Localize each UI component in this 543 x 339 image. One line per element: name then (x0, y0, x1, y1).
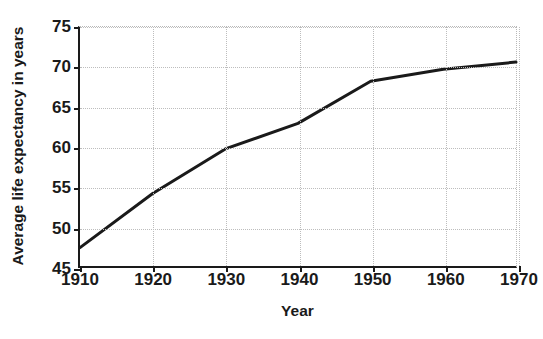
gridline-vertical (153, 27, 154, 266)
gridline-horizontal (80, 27, 516, 28)
x-axis-tick-label: 1910 (61, 270, 99, 290)
gridline-vertical (226, 27, 227, 266)
plot-area: 4550556065707519101920193019401950196019… (78, 26, 517, 268)
gridline-horizontal (80, 108, 516, 109)
gridline-horizontal (80, 229, 516, 230)
x-axis-tick-label: 1950 (354, 270, 392, 290)
gridline-horizontal (80, 67, 516, 68)
y-axis-tick (74, 27, 80, 29)
x-axis-tick-label: 1920 (134, 270, 172, 290)
x-axis-tick-label: 1970 (500, 270, 538, 290)
gridline-vertical (446, 27, 447, 266)
y-axis-tick-label: 65 (52, 98, 71, 118)
y-axis-tick-label: 75 (52, 17, 71, 37)
y-axis-tick-label: 50 (52, 219, 71, 239)
x-axis-tick-label: 1960 (427, 270, 465, 290)
y-axis-tick-label: 60 (52, 138, 71, 158)
y-axis-tick (74, 108, 80, 110)
y-axis-tick (74, 229, 80, 231)
x-axis-title: Year (78, 302, 517, 320)
gridline-horizontal (80, 188, 516, 189)
y-axis-tick (74, 148, 80, 150)
data-series-line (80, 27, 516, 266)
y-axis-tick (74, 67, 80, 69)
gridline-horizontal (80, 148, 516, 149)
x-axis-tick-label: 1930 (207, 270, 245, 290)
gridline-vertical (300, 27, 301, 266)
x-axis-tick-label: 1940 (281, 270, 319, 290)
y-axis-title: Average life expectancy in years (9, 21, 27, 271)
life-expectancy-line-chart: from 1910-1970 Average life expectancy i… (0, 0, 543, 339)
y-axis-tick (74, 188, 80, 190)
y-axis-tick-label: 70 (52, 57, 71, 77)
gridline-vertical (519, 27, 520, 266)
y-axis-tick-label: 55 (52, 178, 71, 198)
gridline-vertical (373, 27, 374, 266)
